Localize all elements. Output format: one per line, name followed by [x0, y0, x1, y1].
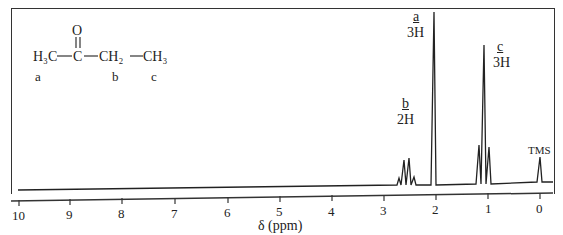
tick-6: 6 — [224, 205, 231, 221]
tick-8: 8 — [118, 206, 125, 222]
tick-9: 9 — [66, 207, 73, 223]
tick-4: 4 — [328, 204, 335, 220]
tick-0: 0 — [536, 201, 543, 217]
tick-10: 10 — [12, 208, 25, 224]
mol-label-c: c — [151, 70, 157, 84]
tick-1: 1 — [485, 201, 492, 217]
peak-b-integration: 2H — [397, 113, 414, 127]
spectrum-trace — [18, 12, 553, 190]
nmr-spectrum-plot — [0, 0, 563, 235]
x-axis-label: δ (ppm) — [258, 218, 302, 234]
peak-a-letter: a — [413, 10, 419, 24]
peak-a-integration: 3H — [407, 26, 424, 40]
mol-ch3: CH₃ — [143, 50, 167, 64]
tick-2: 2 — [432, 202, 439, 218]
x-axis-line — [11, 193, 553, 201]
mol-h3c: H₃C — [33, 50, 57, 64]
peak-tms-label: TMS — [528, 143, 551, 157]
mol-label-b: b — [112, 70, 119, 84]
tick-7: 7 — [171, 206, 178, 222]
mol-label-a: a — [35, 70, 41, 84]
peak-c-letter: c — [497, 40, 503, 54]
tick-3: 3 — [380, 203, 387, 219]
mol-carbonyl-c: C — [73, 50, 82, 64]
peak-c-integration: 3H — [493, 56, 510, 70]
peak-b-letter: b — [402, 97, 409, 111]
mol-ch2: CH₂ — [99, 50, 123, 64]
mol-oxygen: O — [72, 24, 82, 38]
